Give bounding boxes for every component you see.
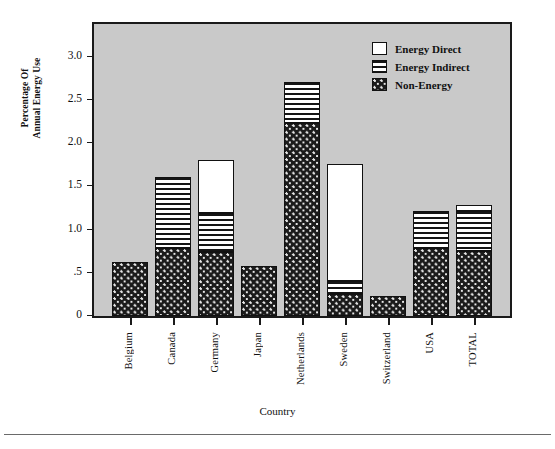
x-axis-category-label: Switzerland (381, 332, 395, 384)
y-axis-tick-label: 1.5 (68, 178, 82, 190)
legend-item-energy-direct: Energy Direct (372, 40, 502, 57)
x-axis-tick (130, 316, 132, 325)
y-axis-tick-label: 1.0 (68, 222, 82, 234)
y-axis-tick-label: 2.5 (68, 92, 82, 104)
x-axis-category-label: Canada (166, 332, 180, 365)
bar-segment[interactable] (327, 294, 363, 316)
bar-segment[interactable] (327, 164, 363, 281)
x-axis-tick (474, 316, 476, 325)
bar-segment[interactable] (327, 281, 363, 293)
x-axis-category-label: USA (424, 332, 438, 354)
x-axis-tick (173, 316, 175, 325)
x-axis-category-label: TOTAL (467, 332, 481, 366)
legend-label-energy-indirect: Energy Indirect (395, 61, 470, 73)
legend-item-energy-indirect: Energy Indirect (372, 58, 502, 75)
y-axis-tick-label: .5 (73, 265, 82, 277)
x-axis-tick (388, 316, 390, 325)
x-axis-tick (216, 316, 218, 325)
bar-segment[interactable] (284, 123, 320, 316)
y-axis-title-line2: Annual Energy Use (32, 38, 44, 158)
bar-segment[interactable] (456, 251, 492, 316)
y-axis-tick-label: 0 (76, 308, 82, 320)
bar-segment[interactable] (112, 262, 148, 316)
y-axis-tick: 1.5 (87, 185, 94, 186)
x-axis-category-label: Sweden (338, 332, 352, 366)
y-axis-tick: .5 (87, 272, 94, 273)
x-axis-title: Country (0, 405, 555, 417)
page-divider (4, 434, 551, 435)
legend-item-non-energy: Non-Energy (372, 76, 502, 93)
x-axis-tick (431, 316, 433, 325)
y-axis-tick-label: 2.0 (68, 135, 82, 147)
y-axis-tick: 3.0 (87, 56, 94, 57)
x-axis-tick (345, 316, 347, 325)
y-axis-tick: 2.5 (87, 99, 94, 100)
bar-segment[interactable] (456, 211, 492, 252)
bar-segment[interactable] (198, 160, 234, 214)
bar-segment[interactable] (155, 248, 191, 316)
x-axis-category-label: Germany (209, 332, 223, 372)
y-axis-tick: 1.0 (87, 229, 94, 230)
x-axis-tick (259, 316, 261, 325)
bar-segment[interactable] (241, 266, 277, 316)
bar-segment[interactable] (155, 177, 191, 248)
chart-page: 0.51.01.52.02.53.0 Energy Direct Energy … (0, 0, 555, 449)
bar-segment[interactable] (413, 211, 449, 247)
x-axis-tick (302, 316, 304, 325)
x-axis-category-label: Japan (252, 332, 266, 357)
bar-segment[interactable] (198, 252, 234, 316)
chart-legend: Energy Direct Energy Indirect Non-Energy (372, 40, 502, 94)
bar-segment[interactable] (413, 248, 449, 316)
bar-segment[interactable] (456, 205, 492, 211)
bar-segment[interactable] (370, 296, 406, 316)
y-axis-tick-label: 3.0 (68, 49, 82, 61)
legend-swatch-indirect-icon (372, 60, 387, 73)
legend-swatch-nonenergy-icon (372, 78, 387, 91)
legend-label-energy-direct: Energy Direct (395, 43, 461, 55)
y-axis-title: Percentage Of Annual Energy Use (20, 38, 50, 158)
y-axis-tick: 0 (87, 315, 94, 316)
x-axis-category-label: Netherlands (295, 332, 309, 385)
x-axis-category-label: Belgium (123, 332, 137, 370)
bar-segment[interactable] (284, 82, 320, 123)
legend-label-non-energy: Non-Energy (395, 79, 452, 91)
y-axis-tick: 2.0 (87, 142, 94, 143)
legend-swatch-direct-icon (372, 42, 387, 55)
bar-segment[interactable] (198, 213, 234, 252)
y-axis-title-line1: Percentage Of (20, 38, 32, 158)
